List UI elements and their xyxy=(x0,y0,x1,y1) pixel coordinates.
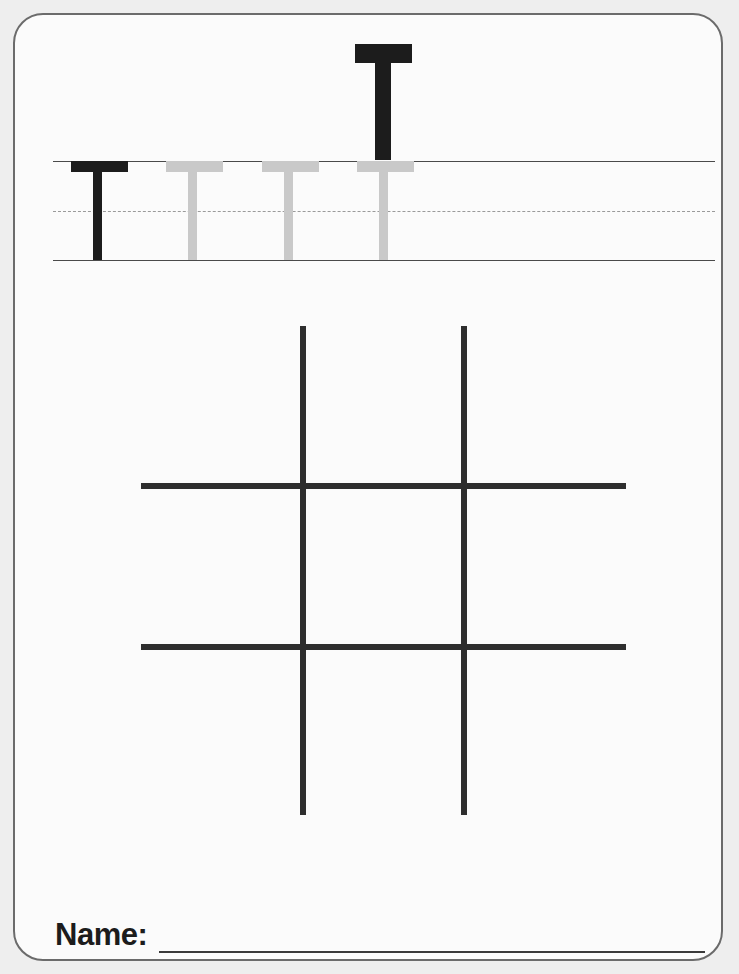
name-label: Name: xyxy=(55,918,147,952)
practice-letter-trace-2[interactable] xyxy=(262,161,319,260)
letter-t-stem xyxy=(284,161,293,260)
letter-t-crossbar xyxy=(355,44,412,63)
grid-vertical-line-1 xyxy=(300,326,306,815)
grid-horizontal-line-1 xyxy=(141,483,626,489)
letter-t-stem xyxy=(188,161,197,260)
name-input-blank[interactable] xyxy=(159,951,705,953)
worksheet-sheet: Name: xyxy=(13,13,723,961)
letter-t-stem xyxy=(379,161,388,260)
letter-t-stem xyxy=(93,161,102,260)
practice-letter-example-1 xyxy=(71,161,128,260)
grid-vertical-line-2 xyxy=(461,326,467,815)
guide-line-bottom-solid xyxy=(53,260,715,261)
letter-t-stem xyxy=(375,63,391,160)
worksheet-page: Name: xyxy=(0,0,739,974)
grid-horizontal-line-2 xyxy=(141,644,626,650)
name-field-row: Name: xyxy=(55,918,707,958)
practice-letter-trace-3[interactable] xyxy=(357,161,414,260)
practice-letter-trace-1[interactable] xyxy=(166,161,223,260)
hero-letter-t xyxy=(355,44,412,160)
